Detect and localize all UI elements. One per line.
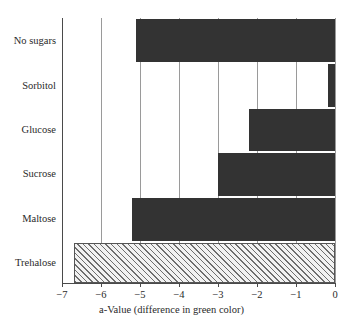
x-tick-label: −3 [203, 288, 233, 301]
bar-glucose [249, 109, 335, 151]
x-tick-label: −2 [242, 288, 272, 301]
x-tick-mark [257, 283, 258, 287]
category-label-maltose: Maltose [0, 213, 56, 224]
x-tick-mark [179, 283, 180, 287]
x-tick-mark [62, 283, 63, 287]
y-axis-spine [62, 18, 63, 284]
x-tick-label: −6 [86, 288, 116, 301]
x-tick-mark [335, 283, 336, 287]
bar-maltose [132, 198, 335, 241]
bar-trehalose [74, 243, 335, 283]
x-tick-mark [218, 283, 219, 287]
bar-sucrose [218, 153, 335, 196]
gridline [335, 18, 336, 283]
x-tick-label: −1 [281, 288, 311, 301]
category-label-sorbitol: Sorbitol [0, 80, 56, 91]
x-tick-label: −7 [47, 288, 77, 301]
x-tick-mark [140, 283, 141, 287]
category-label-no-sugars: No sugars [0, 35, 56, 46]
category-label-glucose: Glucose [0, 124, 56, 135]
x-tick-label: −5 [125, 288, 155, 301]
x-tick-mark [101, 283, 102, 287]
x-axis-title: a-Value (difference in green color) [0, 304, 343, 315]
bar-chart: No sugars Sorbitol Glucose Sucrose Malto… [0, 0, 343, 327]
x-tick-label: 0 [320, 288, 343, 301]
x-axis-spine [62, 283, 336, 284]
bar-sorbitol [328, 64, 335, 107]
category-label-trehalose: Trehalose [0, 257, 56, 268]
category-label-sucrose: Sucrose [0, 168, 56, 179]
bar-no-sugars [136, 19, 335, 62]
x-tick-mark [296, 283, 297, 287]
x-tick-label: −4 [164, 288, 194, 301]
